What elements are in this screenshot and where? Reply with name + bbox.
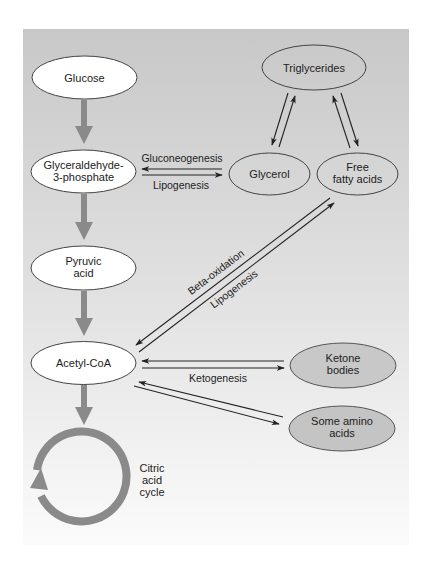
node-label: fatty acids [333, 173, 383, 185]
node-label: Some amino [311, 415, 373, 427]
node-label: acid [73, 267, 93, 279]
node-label: Ketone [326, 352, 361, 364]
node-label: Acetyl-CoA [56, 357, 112, 369]
node-label: acid [142, 474, 162, 486]
node-label: 3-phosphate [53, 171, 114, 183]
label-ketogenesis: Ketogenesis [189, 372, 247, 384]
node-label: Free [346, 161, 369, 173]
node-label: Glyceraldehyde- [43, 159, 123, 171]
metabolism-diagram: Glucose Glyceraldehyde- 3-phosphate Pyru… [0, 0, 427, 565]
label-lipogenesis-top: Lipogenesis [153, 179, 209, 191]
node-label: Glucose [64, 72, 104, 84]
node-label: Triglycerides [283, 62, 345, 74]
node-acetyl-coa: Acetyl-CoA [31, 342, 136, 385]
node-label: Citric [139, 462, 165, 474]
node-label: Pyruvic [65, 255, 102, 267]
label-gluconeogenesis: Gluconeogenesis [141, 152, 222, 164]
node-pyruvic-acid: Pyruvic acid [31, 246, 136, 290]
node-ketone-bodies: Ketone bodies [290, 343, 396, 388]
node-label: bodies [327, 364, 360, 376]
node-label: acids [329, 427, 355, 439]
node-label: cycle [139, 486, 164, 498]
node-some-amino-acids: Some amino acids [289, 406, 395, 451]
node-glyceraldehyde-3-phosphate: Glyceraldehyde- 3-phosphate [31, 150, 136, 193]
node-citric-acid-cycle-label: Citric acid cycle [139, 462, 165, 498]
node-label: Glycerol [249, 168, 289, 180]
node-glucose: Glucose [32, 56, 137, 99]
